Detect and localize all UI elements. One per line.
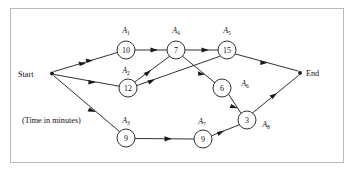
node-a8-value: 3 bbox=[245, 116, 249, 125]
node-a5-value: 15 bbox=[223, 46, 231, 55]
end-node-dot bbox=[298, 71, 302, 75]
time-units-caption: (Time in minutes) bbox=[22, 116, 81, 125]
node-a7-value: 9 bbox=[201, 135, 205, 144]
node-a5[interactable]: 15 bbox=[218, 41, 236, 59]
node-a8[interactable]: 3 bbox=[238, 111, 256, 129]
node-a6[interactable]: 6 bbox=[213, 79, 231, 97]
node-a3-value: 9 bbox=[124, 134, 128, 143]
diagram-canvas: Start 10 7 15 12 6 3 9 bbox=[0, 0, 354, 178]
node-a4[interactable]: 7 bbox=[167, 41, 185, 59]
start-node-dot bbox=[50, 72, 54, 76]
node-a6-value: 6 bbox=[220, 84, 224, 93]
end-node-label: End bbox=[306, 69, 319, 78]
node-a1[interactable]: 10 bbox=[117, 41, 135, 59]
node-a4-value: 7 bbox=[174, 46, 178, 55]
node-a7[interactable]: 9 bbox=[194, 130, 212, 148]
node-a3[interactable]: 9 bbox=[117, 129, 135, 147]
start-node-label: Start bbox=[18, 70, 34, 79]
node-a1-value: 10 bbox=[122, 46, 130, 55]
node-a2[interactable]: 12 bbox=[119, 79, 137, 97]
activity-network-figure: Start 10 7 15 12 6 3 9 bbox=[0, 0, 354, 178]
node-a2-value: 12 bbox=[124, 84, 132, 93]
